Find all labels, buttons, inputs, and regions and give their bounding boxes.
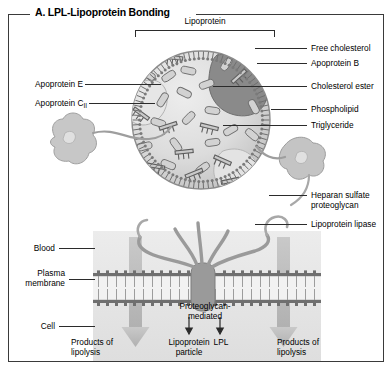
label-lpl: LPL [205, 337, 237, 347]
label-heparan-sulfate-line2: proteoglycan [311, 200, 359, 210]
label-apoprotein-cii-subscript: II [83, 102, 87, 109]
label-blood: Blood [9, 243, 55, 253]
label-plasma-membrane-line2: membrane [9, 278, 65, 288]
label-lipoprotein-lipase: Lipoprotein lipase [311, 219, 376, 229]
leader-blood [59, 248, 95, 249]
leader-free-cholesterol [255, 48, 307, 49]
label-triglyceride: Triglyceride [311, 120, 354, 130]
frame-right-border [383, 14, 384, 362]
label-products-lipolysis-left-line1: Products of [71, 337, 113, 347]
lipoprotein-particle [126, 51, 270, 191]
lipoprotein-bracket [135, 30, 275, 38]
diagram-stage: Lipoprotein Free cholesterol Apoprotein … [9, 15, 383, 361]
figure-panel: A. LPL-Lipoprotein Bonding [0, 0, 392, 374]
label-apoprotein-cii-text: Apoprotein C [35, 98, 83, 108]
label-lipoprotein-particle-line2: particle [153, 347, 225, 357]
leader-plasma-membrane [69, 279, 95, 280]
label-free-cholesterol: Free cholesterol [311, 43, 371, 53]
leader-cell [59, 326, 95, 327]
leader-apoprotein-cii [89, 103, 155, 104]
leader-apoprotein-e [85, 84, 161, 85]
label-phospholipid: Phospholipid [311, 104, 359, 114]
leader-triglyceride [223, 125, 307, 126]
label-cholesterol-ester: Cholesterol ester [311, 81, 374, 91]
label-proteoglycan-mediated-line2: mediated [159, 311, 251, 321]
label-apoprotein-b: Apoprotein B [311, 58, 359, 68]
label-plasma-membrane-line1: Plasma [9, 268, 65, 278]
label-proteoglycan-mediated-line1: Proteoglycan- [159, 301, 251, 311]
bracket-label-lipoprotein: Lipoprotein [165, 16, 245, 26]
frame-bottom-border [8, 361, 384, 362]
leader-phospholipid [271, 109, 307, 110]
leader-cholesterol-ester [213, 86, 307, 87]
label-products-lipolysis-right-line1: Products of [277, 337, 319, 347]
label-cell: Cell [9, 321, 55, 331]
label-heparan-sulfate-line1: Heparan sulfate [311, 190, 370, 200]
leader-heparan-sulfate [269, 195, 307, 196]
leader-lipoprotein-lipase [255, 224, 307, 225]
label-apoprotein-e: Apoprotein E [9, 79, 83, 89]
lipoprotein-lipase-enzyme [279, 137, 325, 179]
label-products-lipolysis-right-line2: lipolysis [277, 347, 306, 357]
leader-apoprotein-b [257, 63, 307, 64]
label-apoprotein-cii: Apoprotein CII [9, 98, 87, 109]
apoprotein-e-blob [51, 113, 97, 164]
label-products-lipolysis-left-line2: lipolysis [71, 347, 100, 357]
